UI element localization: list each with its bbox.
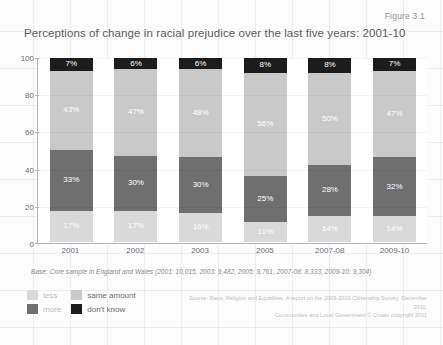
bar-segment[interactable]: 50% — [308, 73, 351, 165]
gridline — [38, 95, 427, 96]
gridline — [38, 58, 427, 59]
bar-segment[interactable]: 25% — [244, 176, 287, 222]
y-axis-tick-mark — [35, 243, 39, 244]
y-axis-tick-label: 80 — [25, 91, 34, 100]
chart-legend: lesssame amountmoredon't know — [27, 288, 136, 316]
legend-label: don't know — [87, 305, 125, 314]
y-axis-tick-label: 20 — [25, 202, 34, 211]
legend-swatch — [71, 304, 82, 314]
bar-segment[interactable]: 11% — [244, 222, 287, 242]
gridline — [38, 132, 427, 133]
bar-column[interactable]: 7%47%32%14% — [373, 58, 416, 242]
bar-segment[interactable]: 30% — [114, 156, 157, 211]
x-axis-tick-label: 2003 — [169, 246, 231, 255]
y-axis-tick-label: 40 — [25, 165, 34, 174]
bar-column[interactable]: 6%47%30%17% — [114, 58, 157, 242]
legend-item[interactable]: less — [27, 290, 61, 300]
x-axis-tick-label: 2005 — [234, 246, 296, 255]
legend-swatch — [27, 290, 38, 300]
bar-segment[interactable]: 8% — [244, 58, 287, 73]
bar-segment[interactable]: 7% — [50, 58, 93, 71]
legend-swatch — [71, 290, 82, 300]
y-axis: 020406080100 — [12, 58, 34, 244]
y-axis-tick-label: 60 — [25, 128, 34, 137]
gridline — [38, 170, 427, 171]
x-axis: 20012002200320052007-082009-10 — [38, 246, 427, 255]
legend-label: same amount — [87, 291, 135, 300]
bar-segment[interactable]: 14% — [308, 216, 351, 242]
legend-item[interactable]: more — [27, 304, 61, 314]
bar-segment[interactable]: 33% — [50, 150, 93, 211]
y-axis-tick-label: 0 — [30, 240, 34, 249]
bar-segment[interactable]: 16% — [179, 213, 222, 242]
bar-column[interactable]: 7%43%33%17% — [50, 58, 93, 242]
legend-label: less — [43, 291, 57, 300]
x-axis-tick-label: 2002 — [104, 246, 166, 255]
source-note-line-1: Source: Race, Religion and Equalities: A… — [179, 294, 427, 311]
bar-segment[interactable]: 30% — [179, 157, 222, 212]
source-note-line-2: Communities and Local Government © Crown… — [179, 311, 427, 320]
bar-segment[interactable]: 28% — [308, 165, 351, 217]
figure-page: Figure 3.1 Perceptions of change in raci… — [0, 0, 443, 345]
chart-plot-area: 020406080100 7%43%33%17%6%47%30%17%6%48%… — [12, 58, 427, 256]
bar-segment[interactable]: 7% — [373, 58, 416, 71]
x-axis-tick-label: 2001 — [39, 246, 101, 255]
bar-column[interactable]: 6%48%30%16% — [179, 58, 222, 242]
bar-segment[interactable]: 47% — [373, 71, 416, 157]
stacked-bar-group: 7%43%33%17%6%47%30%17%6%48%30%16%8%56%25… — [39, 58, 427, 242]
legend-label: more — [43, 305, 61, 314]
bar-segment[interactable]: 56% — [244, 73, 287, 176]
chart-title: Perceptions of change in racial prejudic… — [24, 27, 405, 39]
gridline — [38, 207, 427, 208]
base-note: Base: Core sample in England and Wales (… — [31, 268, 371, 275]
x-axis-tick-label: 2009-10 — [364, 246, 426, 255]
bar-segment[interactable]: 43% — [50, 71, 93, 150]
bar-segment[interactable]: 6% — [179, 58, 222, 69]
bar-segment[interactable]: 8% — [308, 58, 351, 73]
legend-swatch — [27, 304, 38, 314]
bar-segment[interactable]: 47% — [114, 69, 157, 155]
y-axis-tick-label: 100 — [21, 54, 34, 63]
legend-item[interactable]: don't know — [71, 304, 135, 314]
source-note: Source: Race, Religion and Equalities: A… — [179, 294, 427, 320]
x-axis-tick-label: 2007-08 — [299, 246, 361, 255]
figure-number-label: Figure 3.1 — [385, 11, 425, 21]
bar-column[interactable]: 8%50%28%14% — [308, 58, 351, 242]
bar-segment[interactable]: 17% — [114, 211, 157, 242]
bar-column[interactable]: 8%56%25%11% — [244, 58, 287, 242]
legend-item[interactable]: same amount — [71, 290, 135, 300]
bar-segment[interactable]: 6% — [114, 58, 157, 69]
bar-segment[interactable]: 14% — [373, 216, 416, 242]
bar-segment[interactable]: 17% — [50, 211, 93, 242]
bar-segment[interactable]: 48% — [179, 69, 222, 157]
plot-canvas: 7%43%33%17%6%47%30%17%6%48%30%16%8%56%25… — [37, 58, 427, 244]
